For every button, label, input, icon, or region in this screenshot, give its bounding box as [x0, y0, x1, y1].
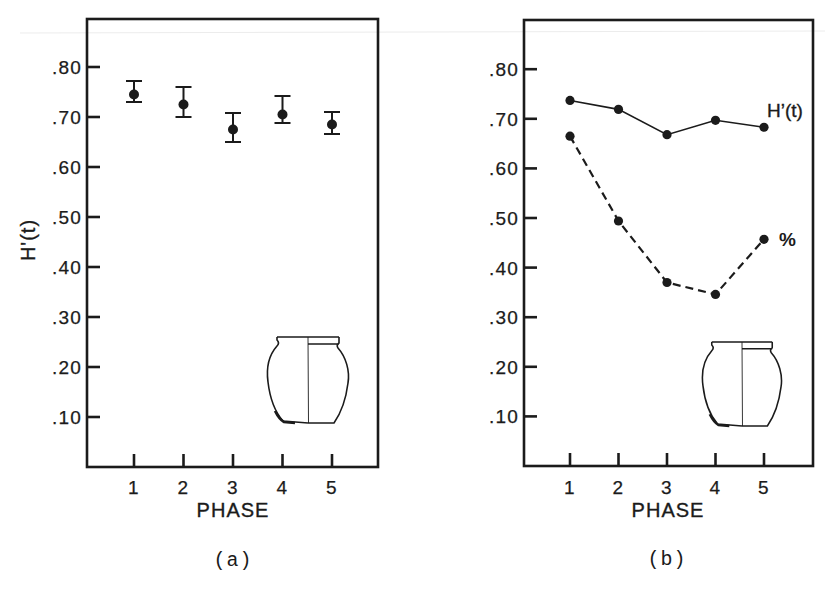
- error-bar-point: [176, 87, 192, 117]
- x-tick-label: 4: [277, 477, 289, 498]
- panel-a-y-axis-title: H'(t): [17, 219, 39, 261]
- y-tick-label: .60: [489, 158, 519, 179]
- y-tick-label: .10: [489, 406, 519, 427]
- panel-a: .10.20.30.40.50.60.70.8012345 H'(t) PHAS…: [17, 19, 378, 572]
- data-point: [662, 130, 671, 139]
- error-bar-point: [324, 112, 340, 134]
- data-point: [614, 216, 623, 225]
- y-tick-label: .70: [489, 109, 519, 130]
- y-tick-label: .80: [52, 57, 82, 78]
- x-tick-label: 3: [661, 477, 673, 498]
- series-line-h-t: [570, 100, 764, 134]
- data-point: [711, 116, 720, 125]
- data-point: [179, 100, 189, 110]
- panel-a-x-axis-title: PHASE: [197, 499, 270, 521]
- plot-frame: [524, 20, 813, 466]
- data-point: [711, 290, 720, 299]
- y-tick-label: .80: [489, 59, 519, 80]
- y-tick-label: .30: [489, 307, 519, 328]
- data-point: [327, 120, 337, 130]
- figure: .10.20.30.40.50.60.70.8012345 H'(t) PHAS…: [0, 0, 831, 591]
- data-point: [662, 278, 671, 287]
- data-point: [759, 235, 768, 244]
- data-point: [614, 105, 623, 114]
- x-tick-label: 3: [227, 477, 239, 498]
- data-point: [228, 125, 238, 135]
- x-tick-label: 2: [613, 477, 625, 498]
- y-tick-label: .70: [52, 107, 82, 128]
- y-tick-label: .20: [489, 357, 519, 378]
- data-point: [759, 123, 768, 132]
- data-point: [278, 110, 288, 120]
- jar-profile-icon: [267, 337, 348, 423]
- y-tick-label: .10: [52, 407, 82, 428]
- data-point: [565, 96, 574, 105]
- y-tick-label: .20: [52, 357, 82, 378]
- error-bar-point: [225, 113, 241, 142]
- x-tick-label: 2: [178, 477, 190, 498]
- jar-profile-icon: [702, 342, 781, 426]
- panel-b: .10.20.30.40.50.60.70.8012345 PHASE (b) …: [489, 20, 813, 571]
- error-bar-point: [275, 96, 291, 123]
- data-point: [129, 90, 139, 100]
- y-tick-label: .40: [489, 258, 519, 279]
- x-tick-label: 4: [710, 477, 722, 498]
- plot-frame: [87, 19, 378, 467]
- y-tick-label: .50: [489, 208, 519, 229]
- series-label-h-t: H’(t): [767, 100, 803, 121]
- panel-b-caption: (b): [647, 548, 686, 571]
- panel-a-plot: .10.20.30.40.50.60.70.8012345: [52, 19, 378, 498]
- error-bar-point: [126, 81, 142, 102]
- x-tick-label: 5: [758, 477, 770, 498]
- jar-center-axis: [308, 337, 309, 423]
- x-tick-label: 1: [128, 477, 140, 498]
- panel-b-plot: .10.20.30.40.50.60.70.8012345: [489, 20, 813, 498]
- y-tick-label: .30: [52, 307, 82, 328]
- series-line-percent: [570, 136, 764, 294]
- y-tick-label: .40: [52, 257, 82, 278]
- y-tick-label: .50: [52, 207, 82, 228]
- data-point: [565, 132, 574, 141]
- panel-a-caption: (a): [213, 549, 252, 572]
- series-label-percent: %: [779, 229, 796, 250]
- x-tick-label: 5: [326, 477, 338, 498]
- x-tick-label: 1: [564, 477, 576, 498]
- panel-b-x-axis-title: PHASE: [632, 499, 705, 521]
- y-tick-label: .60: [52, 157, 82, 178]
- scan-artifact-line: [20, 31, 825, 33]
